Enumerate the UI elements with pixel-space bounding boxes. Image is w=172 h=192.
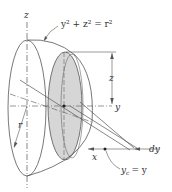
slice-edge-line-2 — [80, 102, 134, 148]
equation-arrow — [44, 36, 48, 41]
centroid-dot — [62, 104, 65, 107]
z-axis-label: z — [23, 10, 29, 20]
x-label: x — [92, 152, 97, 162]
y-label: y — [114, 102, 121, 112]
yc-label: yc= y — [120, 165, 148, 176]
arrow-down — [110, 98, 114, 104]
dy-label: dy — [149, 144, 161, 154]
yc-leader — [106, 151, 120, 169]
radius-label: r — [18, 120, 23, 130]
hemisphere-diagram: z z y y² + z² = r² r x dy yc= y — [0, 0, 172, 192]
x-arrow-left — [88, 147, 94, 151]
arrow-up — [110, 53, 114, 59]
radius-arrow — [14, 142, 18, 148]
yc-dot — [104, 148, 107, 151]
z-dimension-label: z — [108, 73, 114, 83]
equation-label: y² + z² = r² — [60, 19, 113, 29]
